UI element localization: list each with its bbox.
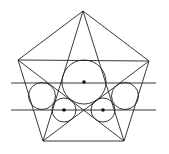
- center-point-lower-right-small: [101, 108, 105, 112]
- circle-left: [29, 83, 56, 110]
- pentagon-edge: [18, 11, 83, 60]
- geometry-diagram: [0, 0, 169, 154]
- tangent-circles: [29, 60, 139, 122]
- circle-center-points: [62, 80, 105, 112]
- pentagram-edge: [43, 61, 149, 141]
- circle-right: [112, 83, 139, 110]
- pentagon-edge: [83, 11, 149, 61]
- pentagram-edge: [83, 11, 124, 141]
- pentagram-star: [18, 11, 149, 141]
- pentagon-edge: [124, 61, 149, 141]
- pentagon-edge: [18, 60, 43, 141]
- center-point-large-center: [82, 80, 86, 84]
- center-point-lower-left-small: [62, 108, 66, 112]
